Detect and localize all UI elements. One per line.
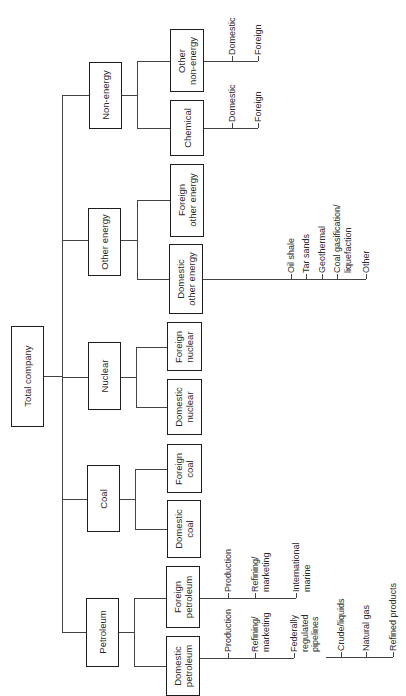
connector xyxy=(121,377,136,378)
label-line: Refining/ xyxy=(250,552,261,592)
label-line: other energy xyxy=(187,173,198,226)
label-line: Domestic xyxy=(227,84,238,122)
connector xyxy=(326,657,393,658)
leaf-label: Refining/marketing xyxy=(250,612,271,652)
label-line: petroleum xyxy=(183,645,194,687)
total-company-label: Total company xyxy=(22,345,33,406)
leaf-label: Internationalmarine xyxy=(291,542,312,592)
label-line: Other xyxy=(361,250,372,273)
connector xyxy=(134,666,166,667)
leaf-label: Crude/liquids xyxy=(336,598,347,651)
tick xyxy=(337,274,338,279)
label-line: non-energy xyxy=(187,37,198,85)
label-line: Domestic xyxy=(173,509,184,549)
connector xyxy=(200,598,296,599)
division-coal-label: Coal xyxy=(98,489,109,509)
connector xyxy=(62,499,87,500)
connector xyxy=(120,499,135,500)
label-line: Chemical xyxy=(182,108,193,148)
connector xyxy=(134,598,166,599)
unit-domestic-other-energy-label: Domestic other energy xyxy=(175,252,197,305)
connector xyxy=(62,632,86,633)
label-line: Tar sands xyxy=(301,234,312,273)
division-non-energy-label: Non-energy xyxy=(100,70,111,120)
tick xyxy=(258,56,259,61)
connector xyxy=(135,529,167,530)
tick xyxy=(232,123,233,128)
connector xyxy=(121,240,137,241)
tick xyxy=(255,653,256,658)
label-line: Geothermal xyxy=(317,226,328,273)
leaf-label: Domestic xyxy=(227,84,238,122)
label-line: pipelines xyxy=(310,614,321,652)
label-line: liquefaction xyxy=(343,204,354,273)
unit-other-non-energy-label: Other non-energy xyxy=(176,37,198,85)
division-other-energy-label: Other energy xyxy=(99,214,110,269)
label-line: regulated xyxy=(300,614,311,652)
tick xyxy=(341,652,342,657)
connector xyxy=(137,279,169,280)
tick xyxy=(296,593,297,598)
leaf-label: Production xyxy=(223,549,234,592)
label-line: Foreign xyxy=(173,453,184,485)
unit-domestic-nuclear-label: Domestic nuclear xyxy=(173,387,195,427)
label-line: Coal gasification/ xyxy=(332,204,343,273)
division-nuclear-label: Nuclear xyxy=(99,360,110,393)
tick xyxy=(228,653,229,658)
connector xyxy=(204,128,258,129)
label-line: Refined products xyxy=(388,583,399,651)
label-line: coal xyxy=(184,520,195,537)
connector xyxy=(136,347,167,348)
label-line: marketing xyxy=(261,612,272,652)
label-line: Production xyxy=(223,609,234,652)
tick xyxy=(258,123,259,128)
label-line: marine xyxy=(302,542,313,592)
connector xyxy=(134,598,135,666)
tick xyxy=(232,56,233,61)
tick xyxy=(366,652,367,657)
connector xyxy=(62,95,89,96)
leaf-label: Refined products xyxy=(388,583,399,651)
division-petroleum-label: Petroleum xyxy=(97,610,108,653)
leaf-label: Foreign xyxy=(253,24,264,55)
connector xyxy=(204,61,258,62)
unit-domestic-coal-label: Domestic coal xyxy=(173,509,195,549)
leaf-label: Tar sands xyxy=(301,234,312,273)
leaf-label: Other xyxy=(361,250,372,273)
connector xyxy=(137,61,170,62)
label-line: coal xyxy=(184,460,195,477)
label-line: nuclear xyxy=(184,391,195,422)
connector xyxy=(62,377,88,378)
leaf-label: Refining/marketing xyxy=(250,552,271,592)
unit-foreign-other-energy-label: Foreign other energy xyxy=(176,173,198,226)
connector xyxy=(137,61,138,128)
tick xyxy=(228,593,229,598)
unit-foreign-nuclear-label: Foreign nuclear xyxy=(173,331,195,363)
label-line: Domestic xyxy=(175,259,186,299)
label-line: Refining/ xyxy=(250,612,261,652)
leaf-label: Domestic xyxy=(227,17,238,55)
label-line: Production xyxy=(223,549,234,592)
leaf-label: Natural gas xyxy=(361,605,372,651)
label-line: Foreign xyxy=(172,581,183,613)
label-line: Foreign xyxy=(176,184,187,216)
connector xyxy=(119,632,134,633)
leaf-label: Coal gasification/liquefaction xyxy=(332,204,353,273)
label-line: Foreign xyxy=(253,91,264,122)
tick xyxy=(291,274,292,279)
label-line: marketing xyxy=(261,552,272,592)
tick xyxy=(366,274,367,279)
tick xyxy=(322,274,323,279)
connector xyxy=(200,658,294,659)
connector xyxy=(203,279,366,280)
label-line: other energy xyxy=(186,252,197,305)
label-line: Foreign xyxy=(253,24,264,55)
label-line: Domestic xyxy=(173,387,184,427)
label-line: nuclear xyxy=(184,331,195,362)
tick xyxy=(255,593,256,598)
tick xyxy=(393,652,394,657)
label-line: Foreign xyxy=(173,331,184,363)
unit-foreign-petroleum-label: Foreign petroleum xyxy=(172,576,194,618)
connector xyxy=(137,128,170,129)
leaf-label: Production xyxy=(223,609,234,652)
